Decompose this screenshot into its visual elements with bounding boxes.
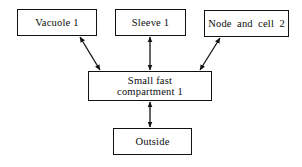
node-sleeve-label: Sleeve 1 xyxy=(130,17,171,29)
node-small-fast-compartment[interactable]: Small fast compartment 1 xyxy=(88,71,212,101)
node-outside-label: Outside xyxy=(133,136,171,148)
node-outside[interactable]: Outside xyxy=(113,128,192,155)
node-vacuole-label: Vacuole 1 xyxy=(33,17,81,29)
node-small-fast-compartment-label: Small fast compartment 1 xyxy=(115,75,185,98)
edge-small-fast-to-node-cell xyxy=(200,38,220,70)
node-sleeve[interactable]: Sleeve 1 xyxy=(115,9,186,36)
diagram-canvas: Vacuole 1 Sleeve 1 Node and cell 2 Small… xyxy=(0,0,302,167)
node-vacuole[interactable]: Vacuole 1 xyxy=(17,9,97,36)
node-node-and-cell-label: Node and cell 2 xyxy=(206,18,287,30)
node-node-and-cell[interactable]: Node and cell 2 xyxy=(204,10,289,37)
edge-small-fast-to-vacuole xyxy=(80,37,100,70)
